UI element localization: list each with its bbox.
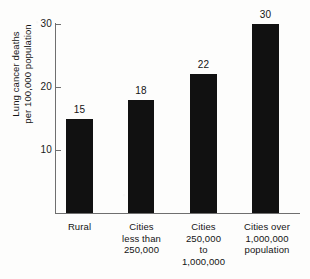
bar-value-cities-over-1000000: 30 — [247, 9, 284, 20]
x-category-label-rural: Rural — [49, 221, 110, 233]
x-axis-line — [55, 213, 300, 214]
x-category-label-cities-over-1000000-line-1: Cities over — [234, 221, 300, 233]
x-category-label-cities-over-1000000-line-2: 1,000,000 — [234, 233, 300, 245]
y-tick-label-10: 10 — [26, 144, 52, 155]
bar-value-cities-less-than-250000: 18 — [123, 85, 159, 96]
y-tick-mark-20 — [56, 87, 61, 88]
x-category-label-cities-250000-to-1000000-line-3: to — [173, 244, 234, 256]
y-tick-mark-30 — [56, 24, 61, 25]
x-category-label-cities-less-than-250000: Cities less than 250,000 — [111, 221, 172, 256]
bar-value-cities-250000-to-1000000: 22 — [185, 59, 222, 70]
x-category-label-cities-250000-to-1000000-line-1: Cities — [173, 221, 234, 233]
bar-rural — [66, 119, 93, 213]
x-category-label-cities-over-1000000-line-3: population — [234, 244, 300, 256]
x-category-label-cities-250000-to-1000000-line-4: 1,000,000 — [173, 256, 234, 268]
x-category-label-cities-less-than-250000-line-2: less than — [111, 233, 172, 245]
x-category-label-cities-250000-to-1000000-line-2: 250,000 — [173, 233, 234, 245]
y-axis-title-line-1: Lung cancer deaths — [10, 0, 22, 154]
y-tick-mark-10 — [56, 150, 61, 151]
y-tick-label-30: 30 — [26, 18, 52, 29]
bar-value-rural: 15 — [61, 104, 98, 115]
x-category-label-cities-250000-to-1000000: Cities 250,000 to 1,000,000 — [173, 221, 234, 267]
y-tick-label-20: 20 — [26, 81, 52, 92]
bar-cities-250000-to-1000000 — [190, 74, 217, 213]
x-category-label-cities-less-than-250000-line-3: 250,000 — [111, 244, 172, 256]
bar-cities-less-than-250000 — [128, 100, 154, 213]
plot-area: Lung cancer deaths per 100,000 populatio… — [0, 0, 310, 279]
x-category-label-rural-line-1: Rural — [49, 221, 110, 233]
lung-cancer-bar-chart: Lung cancer deaths per 100,000 populatio… — [0, 0, 310, 279]
bar-cities-over-1000000 — [252, 24, 279, 213]
x-category-label-cities-less-than-250000-line-1: Cities — [111, 221, 172, 233]
x-category-label-cities-over-1000000: Cities over 1,000,000 population — [234, 221, 300, 256]
y-axis-line — [55, 23, 56, 214]
